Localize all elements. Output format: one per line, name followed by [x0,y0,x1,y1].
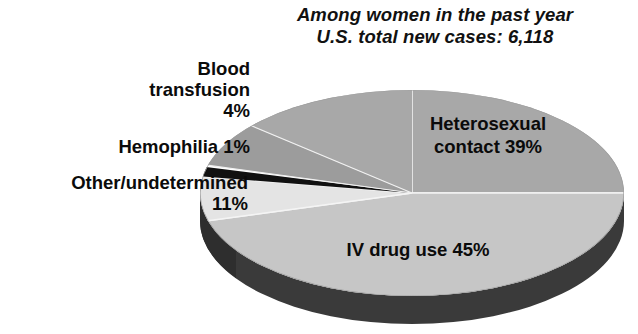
label-blood-transfusion: Blood transfusion 4% [60,58,250,121]
label-blood-transfusion-line-1: Blood [60,58,250,79]
label-heterosexual-contact-line-2: contact 39% [388,135,588,158]
label-iv-drug-use-text: IV drug use 45% [318,238,518,261]
label-hemophilia-text: Hemophilia 1% [20,136,250,157]
label-iv-drug-use: IV drug use 45% [318,238,518,261]
label-other-undetermined: Other/undetermined 11% [0,172,248,214]
pie-chart-figure: Among women in the past year U.S. total … [0,0,638,334]
label-blood-transfusion-line-2: transfusion [60,79,250,100]
label-other-undetermined-line-1: Other/undetermined [0,172,248,193]
label-other-undetermined-value: 11% [0,193,248,214]
label-blood-transfusion-value: 4% [60,100,250,121]
label-hemophilia: Hemophilia 1% [20,136,250,157]
label-heterosexual-contact: Heterosexual contact 39% [388,112,588,158]
label-heterosexual-contact-line-1: Heterosexual [388,112,588,135]
pie-graphic [0,0,638,334]
